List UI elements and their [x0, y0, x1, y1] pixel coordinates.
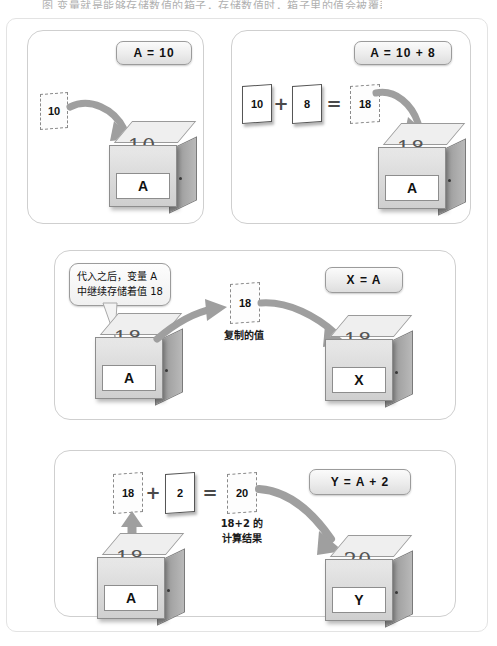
- diagram-page: 图 变量就是能够存储数值的箱子，存储数值时，箱子里的值会被覆盖 A = 10 1…: [0, 0, 497, 646]
- box-front-shade: [98, 558, 164, 572]
- box-front: A: [378, 147, 446, 209]
- box-label: X: [332, 367, 386, 393]
- value-card-solid-2: 8: [292, 84, 322, 124]
- value-card-solid-1: 10: [242, 84, 272, 124]
- box-front-shade: [326, 560, 392, 574]
- value-card-copied: 18: [230, 282, 260, 324]
- box-dot: [395, 591, 398, 594]
- top-caption: 图 变量就是能够存储数值的箱子，存储数值时，箱子里的值会被覆盖: [42, 0, 382, 9]
- operator-plus: +: [145, 483, 161, 501]
- box-front: Y: [325, 559, 393, 621]
- box-dot: [165, 369, 168, 372]
- panel-compute: Y = A + 2 18 + 2 = 20 18+2 的 计算结果 18 A: [54, 450, 456, 617]
- value-card-dashed: 10: [40, 92, 68, 130]
- box-label: Y: [332, 587, 386, 613]
- value-card-result: 20: [227, 472, 257, 514]
- box-front-shade: [379, 148, 445, 162]
- badge-assign: A = 10: [116, 41, 192, 65]
- badge-add: A = 10 + 8: [354, 41, 452, 65]
- panel-assign: A = 10 10 10 A: [27, 30, 204, 224]
- value-card-operand-2: 2: [165, 472, 195, 514]
- operator-equals: =: [201, 483, 219, 501]
- panel-copy: X = A 代入之后，变量 A 中继续存储着值 18 18 A 18 复制的值: [54, 250, 456, 420]
- callout-line-1: 代入之后，变量 A: [77, 269, 163, 284]
- box-label: A: [385, 175, 439, 201]
- box-dot: [395, 371, 398, 374]
- box-label: A: [102, 365, 156, 391]
- box-front-shade: [110, 146, 176, 160]
- value-card-operand-1: 18: [113, 472, 143, 514]
- box-front: A: [97, 557, 165, 619]
- panel-add: A = 10 + 8 10 + 8 = 18 18 A: [231, 30, 471, 224]
- box-front: X: [325, 339, 393, 401]
- box-front: A: [109, 145, 177, 207]
- box-dot: [167, 589, 170, 592]
- box-dot: [179, 177, 182, 180]
- box-label: A: [116, 173, 170, 199]
- box-front-shade: [326, 340, 392, 354]
- operator-equals: =: [325, 94, 343, 112]
- operator-plus: +: [273, 94, 289, 112]
- box-dot: [448, 179, 451, 182]
- box-label: A: [104, 585, 158, 611]
